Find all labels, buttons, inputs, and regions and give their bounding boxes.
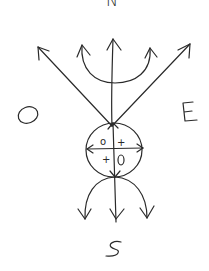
label-north: N: [106, 0, 118, 10]
label-west: [16, 104, 40, 126]
arrow-northeast: [112, 44, 190, 126]
quadrant-bottom-right: [118, 155, 124, 165]
label-south: [106, 241, 121, 256]
quadrant-top-left: o: [100, 136, 106, 147]
compass-diagram: N O E o: [0, 0, 209, 271]
quadrant-top-right: +: [117, 137, 125, 148]
arrow-south: [110, 209, 124, 219]
arrow-northwest: [38, 47, 112, 126]
center-circle: [86, 123, 143, 222]
quadrant-bottom-left: +: [102, 154, 110, 165]
arrow-south-right: [115, 177, 154, 218]
arrow-south-left: [78, 177, 115, 219]
label-east: [183, 102, 197, 121]
arrow-curve-north: [77, 45, 157, 83]
